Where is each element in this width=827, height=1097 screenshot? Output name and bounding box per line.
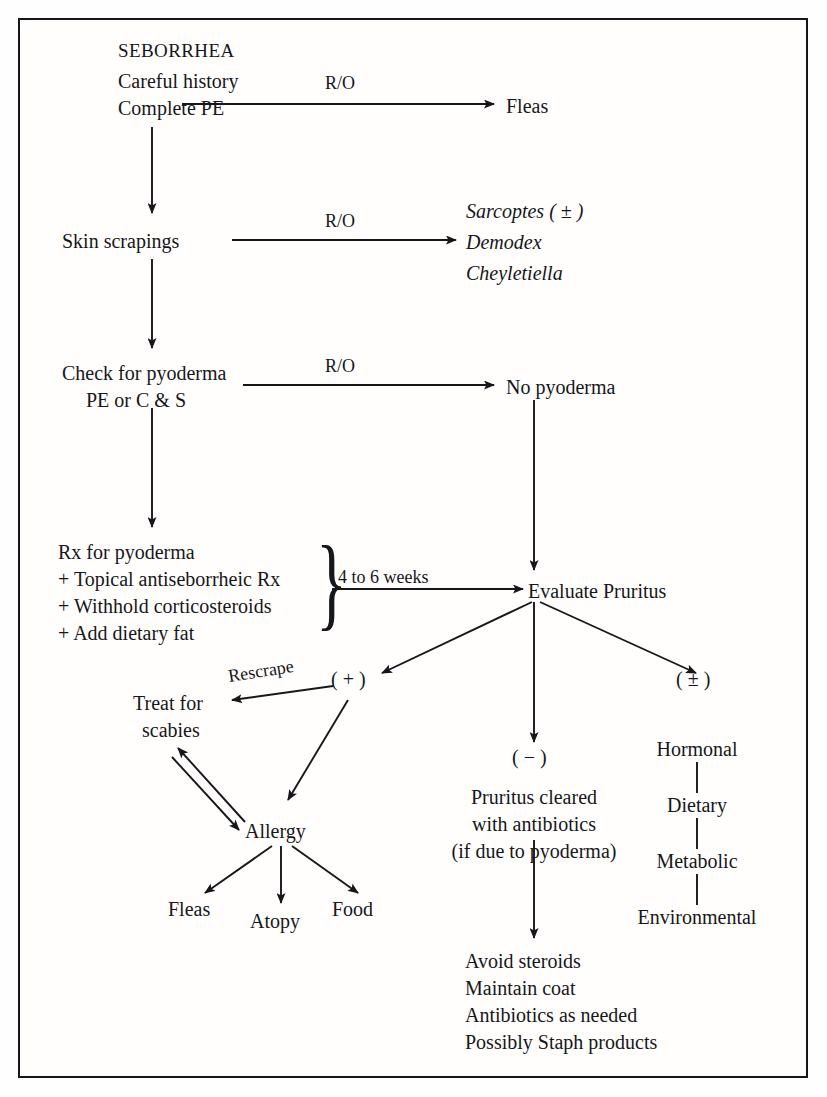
node-allergy: Allergy [245,818,306,844]
edge-label-ro-3: R/O [300,355,380,379]
node-pe-or-cs: PE or C & S [86,387,186,413]
node-no-pyoderma: No pyoderma [506,374,615,400]
node-dietary: Dietary [617,792,777,818]
node-complete-pe: Complete PE [118,95,224,121]
node-check-pyoderma: Check for pyoderma [62,360,226,386]
node-metabolic: Metabolic [617,848,777,874]
node-possibly-staph-products: Possibly Staph products [465,1029,657,1055]
node-skin-scrapings: Skin scrapings [62,228,179,254]
node-rx-line-3: + Withhold corticosteroids [58,593,271,619]
diagram-page: SEBORRHEA Careful history Complete PE R/… [0,0,827,1097]
node-hormonal: Hormonal [617,736,777,762]
node-seborrhea-title: SEBORRHEA [118,38,235,63]
node-pruritus-cleared-line1: Pruritus cleared [434,784,634,810]
node-careful-history: Careful history [118,68,239,94]
node-maintain-coat: Maintain coat [465,975,576,1001]
branch-sign-positive: ( + ) [331,666,366,692]
node-environmental: Environmental [617,904,777,930]
node-avoid-steroids: Avoid steroids [465,948,581,974]
node-atopy: Atopy [250,908,300,934]
branch-sign-negative: ( − ) [512,744,547,770]
node-rx-line-2: + Topical antiseborrheic Rx [58,566,280,592]
edge-label-duration: 4 to 6 weeks [338,566,428,590]
node-evaluate-pruritus: Evaluate Pruritus [528,578,666,604]
node-pruritus-cleared-line2: with antibiotics [434,811,634,837]
edge-label-ro-1: R/O [300,72,380,96]
node-rx-line-4: + Add dietary fat [58,620,194,646]
node-treat-for-scabies-line2: scabies [142,717,200,743]
node-fleas-allergy: Fleas [168,896,210,922]
node-food: Food [332,896,373,922]
edge-label-ro-2: R/O [300,210,380,234]
node-antibiotics-as-needed: Antibiotics as needed [465,1002,637,1028]
node-fleas-top: Fleas [506,93,548,119]
node-sarcoptes: Sarcoptes ( ± ) [466,198,583,224]
node-demodex: Demodex [466,229,542,255]
node-treat-for-scabies-line1: Treat for [133,690,203,716]
node-rx-line-1: Rx for pyoderma [58,539,195,565]
branch-sign-plus-minus: ( ± ) [676,666,710,692]
node-pruritus-cleared-line3: (if due to pyoderma) [434,838,634,864]
node-cheyletiella: Cheyletiella [466,260,563,286]
